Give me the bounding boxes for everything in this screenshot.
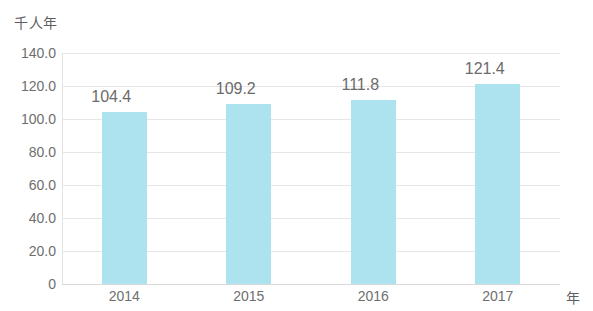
y-axis-tick-label: 120.0 xyxy=(4,78,56,94)
y-axis-tick-label: 0 xyxy=(4,276,56,292)
y-axis-line xyxy=(62,53,63,284)
x-axis-tick-label: 2014 xyxy=(109,288,140,304)
y-axis-tick-label: 140.0 xyxy=(4,45,56,61)
x-axis-tick-label: 2017 xyxy=(482,288,513,304)
bar-value-label: 109.2 xyxy=(216,80,256,98)
bar[interactable] xyxy=(226,104,271,284)
y-axis-tick-label: 60.0 xyxy=(4,177,56,193)
x-axis-line xyxy=(62,284,560,285)
y-axis-unit-label: 千人年 xyxy=(14,12,58,32)
x-axis-unit-label: 年 xyxy=(566,287,580,307)
y-axis-tick-label: 100.0 xyxy=(4,111,56,127)
x-axis-tick-label: 2016 xyxy=(358,288,389,304)
y-axis-tick-label: 80.0 xyxy=(4,144,56,160)
bar-value-label: 121.4 xyxy=(465,60,505,78)
bar[interactable] xyxy=(102,112,147,284)
y-axis-tick-label: 40.0 xyxy=(4,210,56,226)
bar-value-label: 104.4 xyxy=(91,88,131,106)
bar[interactable] xyxy=(351,100,396,284)
bar-chart: 千人年 140.0 120.0 100.0 80.0 60.0 40.0 20.… xyxy=(0,0,593,311)
bar[interactable] xyxy=(475,84,520,284)
x-axis-tick-label: 2015 xyxy=(233,288,264,304)
plot-area xyxy=(62,53,560,284)
y-axis-tick-labels: 140.0 120.0 100.0 80.0 60.0 40.0 20.0 0 xyxy=(0,53,56,284)
gridline xyxy=(62,53,560,54)
y-axis-tick-label: 20.0 xyxy=(4,243,56,259)
bar-value-label: 111.8 xyxy=(341,76,379,94)
